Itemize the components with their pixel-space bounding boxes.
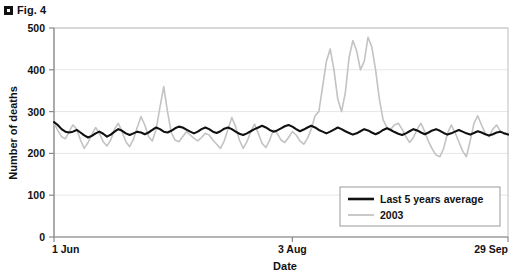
y-tick-label: 200 — [27, 147, 45, 159]
chart-legend: Last 5 years average 2003 — [340, 187, 500, 226]
legend-label-last-5-years-average: Last 5 years average — [380, 193, 483, 205]
y-axis-ticks: 0100200300400500 — [27, 22, 54, 243]
figure-container: Fig. 4 0100200300400500 1 Jun3 Aug29 Sep… — [0, 0, 524, 275]
y-tick-label: 400 — [27, 64, 45, 76]
x-tick-label: 3 Aug — [278, 243, 307, 255]
x-tick-label: 29 Sep — [474, 243, 508, 255]
x-axis-title: Date — [273, 260, 297, 272]
y-tick-label: 0 — [39, 231, 45, 243]
y-tick-label: 300 — [27, 106, 45, 118]
y-axis-title: Number of deaths — [7, 86, 19, 180]
y-tick-label: 100 — [27, 189, 45, 201]
legend-label-2003: 2003 — [380, 209, 404, 221]
x-axis-ticks: 1 Jun3 Aug29 Sep — [52, 237, 508, 255]
y-tick-label: 500 — [27, 22, 45, 34]
x-tick-label: 1 Jun — [52, 243, 79, 255]
line-chart: 0100200300400500 1 Jun3 Aug29 Sep Number… — [0, 0, 524, 275]
